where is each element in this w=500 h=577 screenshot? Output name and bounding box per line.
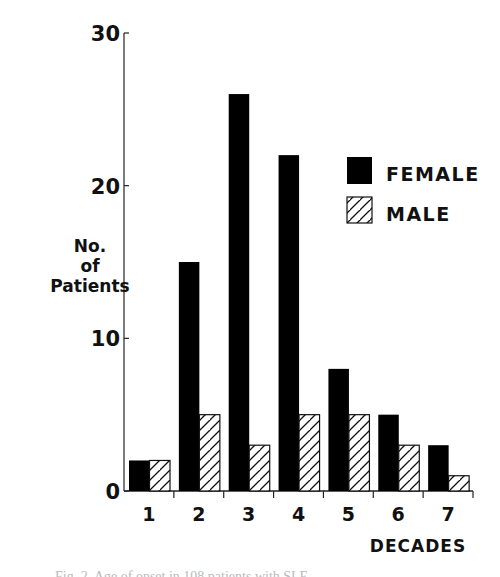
x-tick-label: 2 [192,503,205,525]
x-tick-label: 6 [392,503,405,525]
bar-male-3 [249,445,270,491]
y-tick-label: 30 [91,22,120,46]
bar-female-7 [428,445,449,491]
legend-label-female: FEMALE [386,163,480,185]
bar-female-5 [328,369,349,491]
x-tick-label: 4 [292,503,305,525]
bar-male-6 [399,445,420,491]
y-tick-label: 20 [91,175,120,199]
legend-swatch-female [347,157,372,184]
legend: FEMALE MALE [347,157,480,225]
y-axis-label-line: No. [40,236,140,256]
bar-female-4 [279,155,300,491]
y-axis-label-line: Patients [40,276,140,296]
legend-label-male: MALE [386,203,451,225]
bar-female-2 [179,262,200,491]
x-tick-label: 5 [342,503,355,525]
y-axis-label-line: of [40,256,140,276]
bar-female-3 [229,94,250,491]
bar-female-1 [129,460,150,491]
x-axis-label: DECADES [370,536,466,556]
bar-male-5 [349,415,370,491]
y-tick-label: 10 [91,327,120,351]
x-tick-label: 3 [242,503,255,525]
y-tick-label: 0 [105,480,120,504]
legend-swatch-male [347,197,372,223]
bar-female-6 [378,415,399,491]
x-tick-label: 7 [441,503,454,525]
bars [129,94,469,491]
y-axis-label: No. of Patients [40,236,140,296]
bar-male-7 [449,476,470,491]
figure-caption: Fig. 2. Age of onset in 108 patients wit… [55,569,475,577]
bar-male-4 [299,415,320,491]
bar-male-2 [199,415,220,491]
x-tick-label: 1 [142,503,155,525]
bar-male-1 [150,460,171,491]
